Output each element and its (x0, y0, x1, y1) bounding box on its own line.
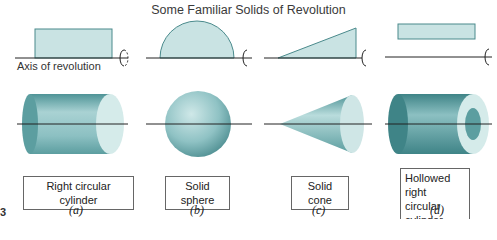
profile-triangle-c (264, 28, 366, 66)
caption-d: (d) (430, 203, 444, 218)
profile-semicircle-b (146, 21, 252, 66)
axis-of-revolution-label: Axis of revolution (17, 60, 101, 72)
solid-cone (264, 95, 372, 153)
solid-sphere (146, 91, 252, 157)
caption-b: (b) (190, 203, 204, 218)
profile-rectangle-d (385, 24, 492, 65)
caption-a: (a) (69, 203, 83, 218)
caption-c: (c) (312, 203, 325, 218)
solid-cylinder (17, 94, 128, 154)
solid-hollow-cylinder (385, 94, 492, 154)
label-hollowed-line1: Hollowed right (405, 171, 465, 199)
page-edge-mark: 3 (0, 206, 6, 218)
